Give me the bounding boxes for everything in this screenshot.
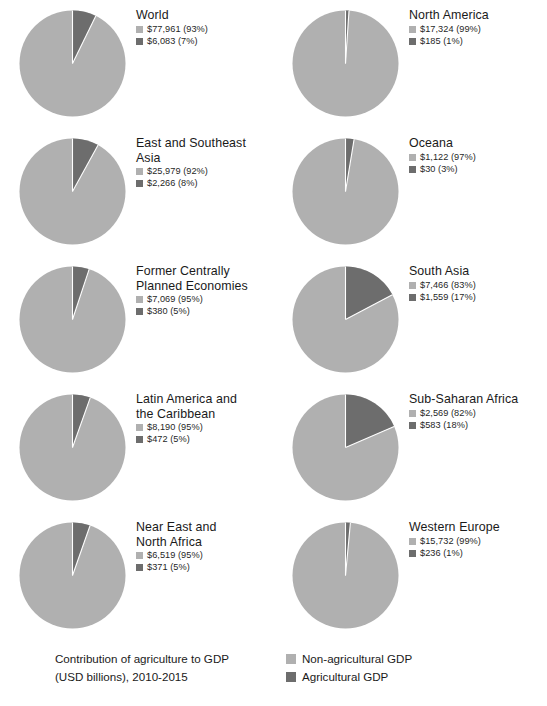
legend-value-label: $17,324 (99%) [420, 24, 481, 35]
pie-legend-row: $1,559 (17%) [409, 292, 547, 303]
legend-series-label: Non-agricultural GDP [302, 650, 412, 668]
region-title: Former Centrally Planned Economies [136, 264, 276, 293]
pie-legend-row: $8,190 (95%) [136, 422, 276, 433]
pie-legend-row: $236 (1%) [409, 548, 547, 559]
legend-value-label: $15,732 (99%) [420, 536, 481, 547]
legend-swatch-icon [409, 294, 416, 301]
legend-value-label: $1,122 (97%) [420, 152, 476, 163]
legend-value-label: $7,069 (95%) [147, 294, 203, 305]
pie-chart [292, 266, 399, 373]
pie-panel: South Asia$7,466 (83%)$1,559 (17%) [273, 258, 546, 386]
legend-swatch-icon [409, 422, 416, 429]
pie-panel: Oceana$1,122 (97%)$30 (3%) [273, 130, 546, 258]
legend-value-label: $30 (3%) [420, 164, 458, 175]
legend-value-label: $6,083 (7%) [147, 36, 198, 47]
legend-swatch-icon [286, 672, 296, 682]
legend-value-label: $2,569 (82%) [420, 408, 476, 419]
region-title: Sub-Saharan Africa [409, 392, 547, 407]
pie-panel: Latin America and the Caribbean$8,190 (9… [0, 386, 273, 514]
legend-value-label: $236 (1%) [420, 548, 463, 559]
pie-labels: Oceana$1,122 (97%)$30 (3%) [409, 136, 547, 175]
pie-legend-row: $583 (18%) [409, 420, 547, 431]
legend-swatch-icon [136, 564, 143, 571]
pie-legend-row: $17,324 (99%) [409, 24, 547, 35]
legend-swatch-icon [136, 168, 143, 175]
pie-chart [292, 522, 399, 629]
legend-swatch-icon [409, 282, 416, 289]
region-title: North America [409, 8, 547, 23]
legend-value-label: $185 (1%) [420, 36, 463, 47]
pie-legend-row: $7,069 (95%) [136, 294, 276, 305]
pie-labels: Sub-Saharan Africa$2,569 (82%)$583 (18%) [409, 392, 547, 431]
pie-labels: South Asia$7,466 (83%)$1,559 (17%) [409, 264, 547, 303]
legend-value-label: $472 (5%) [147, 434, 190, 445]
legend-value-label: $1,559 (17%) [420, 292, 476, 303]
region-title: Western Europe [409, 520, 547, 535]
pie-legend-row: $2,569 (82%) [409, 408, 547, 419]
caption-line-1: Contribution of agriculture to GDP [55, 650, 315, 668]
legend-series-label: Agricultural GDP [302, 668, 388, 686]
legend-value-label: $380 (5%) [147, 306, 190, 317]
legend-swatch-icon [136, 424, 143, 431]
legend-swatch-icon [286, 654, 296, 664]
pie-legend-row: $7,466 (83%) [409, 280, 547, 291]
pie-chart [19, 394, 126, 501]
legend-value-label: $8,190 (95%) [147, 422, 203, 433]
legend-value-label: $371 (5%) [147, 562, 190, 573]
pie-panel: East and Southeast Asia$25,979 (92%)$2,2… [0, 130, 273, 258]
pie-legend-row: $77,961 (93%) [136, 24, 276, 35]
pie-labels: Latin America and the Caribbean$8,190 (9… [136, 392, 276, 445]
pie-legend-row: $371 (5%) [136, 562, 276, 573]
pie-labels: East and Southeast Asia$25,979 (92%)$2,2… [136, 136, 276, 189]
pie-legend-row: $2,266 (8%) [136, 178, 276, 189]
region-title: World [136, 8, 276, 23]
pie-legend-row: $1,122 (97%) [409, 152, 547, 163]
legend-value-label: $2,266 (8%) [147, 178, 198, 189]
legend-swatch-icon [409, 154, 416, 161]
pie-chart [292, 138, 399, 245]
legend-swatch-icon [409, 26, 416, 33]
legend-swatch-icon [409, 38, 416, 45]
pie-panel: World$77,961 (93%)$6,083 (7%) [0, 2, 273, 130]
legend-swatch-icon [136, 552, 143, 559]
region-title: Latin America and the Caribbean [136, 392, 276, 421]
legend-swatch-icon [136, 38, 143, 45]
pie-labels: North America$17,324 (99%)$185 (1%) [409, 8, 547, 47]
legend-swatch-icon [409, 410, 416, 417]
legend-value-label: $25,979 (92%) [147, 166, 208, 177]
caption-line-2: (USD billions), 2010-2015 [55, 668, 315, 686]
legend-swatch-icon [409, 550, 416, 557]
legend-value-label: $77,961 (93%) [147, 24, 208, 35]
region-title: South Asia [409, 264, 547, 279]
pie-chart [19, 138, 126, 245]
pie-legend-row: $15,732 (99%) [409, 536, 547, 547]
pie-legend-row: $380 (5%) [136, 306, 276, 317]
pie-labels: Western Europe$15,732 (99%)$236 (1%) [409, 520, 547, 559]
pie-chart [292, 394, 399, 501]
legend-swatch-icon [136, 308, 143, 315]
legend-value-label: $6,519 (95%) [147, 550, 203, 561]
pie-legend-row: $6,519 (95%) [136, 550, 276, 561]
chart-legend: Non-agricultural GDPAgricultural GDP [286, 650, 412, 686]
legend-swatch-icon [136, 296, 143, 303]
legend-swatch-icon [409, 538, 416, 545]
pie-chart [19, 266, 126, 373]
pie-labels: Near East and North Africa$6,519 (95%)$3… [136, 520, 276, 573]
legend-swatch-icon [136, 180, 143, 187]
pie-panel: Sub-Saharan Africa$2,569 (82%)$583 (18%) [273, 386, 546, 514]
pie-chart [19, 10, 126, 117]
chart-footer: Contribution of agriculture to GDP (USD … [0, 644, 547, 706]
legend-swatch-icon [136, 26, 143, 33]
pie-chart [292, 10, 399, 117]
pie-labels: World$77,961 (93%)$6,083 (7%) [136, 8, 276, 47]
pie-legend-row: $6,083 (7%) [136, 36, 276, 47]
pie-panel: Near East and North Africa$6,519 (95%)$3… [0, 514, 273, 642]
pie-labels: Former Centrally Planned Economies$7,069… [136, 264, 276, 317]
legend-swatch-icon [409, 166, 416, 173]
pie-panel: Former Centrally Planned Economies$7,069… [0, 258, 273, 386]
legend-value-label: $7,466 (83%) [420, 280, 476, 291]
region-title: Oceana [409, 136, 547, 151]
legend-value-label: $583 (18%) [420, 420, 468, 431]
pie-legend-row: $185 (1%) [409, 36, 547, 47]
chart-caption: Contribution of agriculture to GDP (USD … [55, 650, 315, 686]
